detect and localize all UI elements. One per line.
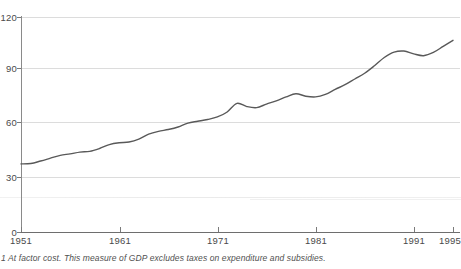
y-tick-label-90: 90 [0, 64, 17, 74]
x-tick-label-1961: 1961 [109, 236, 131, 246]
y-tick-label-120: 120 [0, 13, 17, 23]
y-tick-mark-120 [17, 17, 21, 18]
scan-artifact-line-secondary [250, 199, 461, 200]
footnote-text: 1 At factor cost. This measure of GDP ex… [1, 253, 326, 264]
line-chart-figure: 120 90 60 30 0 1951 1961 1971 1981 1991 … [0, 0, 461, 269]
scan-artifact-line [0, 197, 461, 198]
x-tick-label-1995: 1995 [439, 236, 461, 246]
x-tick-label-1971: 1971 [207, 236, 229, 246]
y-tick-label-30: 30 [0, 173, 17, 183]
x-tick-mark-1981 [316, 227, 317, 232]
gridline-90 [21, 68, 460, 69]
y-axis-line [21, 16, 22, 233]
y-tick-label-60: 60 [0, 118, 17, 128]
x-tick-mark-1991 [414, 227, 415, 232]
x-tick-mark-1951 [21, 227, 22, 232]
x-tick-mark-1971 [218, 227, 219, 232]
x-tick-label-1951: 1951 [10, 236, 32, 246]
gridline-30 [21, 177, 460, 178]
y-axis-tick-labels: 120 90 60 30 0 [0, 0, 17, 269]
y-tick-mark-0 [17, 232, 21, 233]
x-axis-line [21, 232, 460, 233]
x-tick-mark-1995 [453, 227, 454, 232]
y-tick-mark-90 [17, 68, 21, 69]
gridline-60 [21, 122, 460, 123]
x-tick-label-1981: 1981 [305, 236, 327, 246]
y-tick-mark-30 [17, 177, 21, 178]
y-tick-mark-60 [17, 122, 21, 123]
gridline-120 [21, 17, 460, 18]
x-tick-label-1991: 1991 [403, 236, 425, 246]
x-tick-mark-1961 [120, 227, 121, 232]
